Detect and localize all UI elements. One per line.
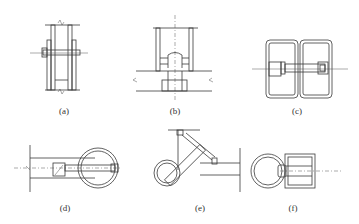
connection-details-diagram: (a) (b) (c) (d) (e) (f) [0, 0, 359, 224]
panel-a [30, 20, 88, 94]
panel-b [133, 15, 213, 100]
label-f: (f) [289, 203, 298, 213]
panel-c [252, 40, 348, 98]
panel-d [14, 145, 120, 192]
panel-f [251, 154, 342, 188]
label-e: (e) [195, 203, 205, 213]
label-a: (a) [59, 106, 69, 116]
label-b: (b) [170, 106, 181, 116]
label-d: (d) [60, 203, 71, 213]
panel-e [154, 130, 240, 192]
label-c: (c) [292, 106, 302, 116]
